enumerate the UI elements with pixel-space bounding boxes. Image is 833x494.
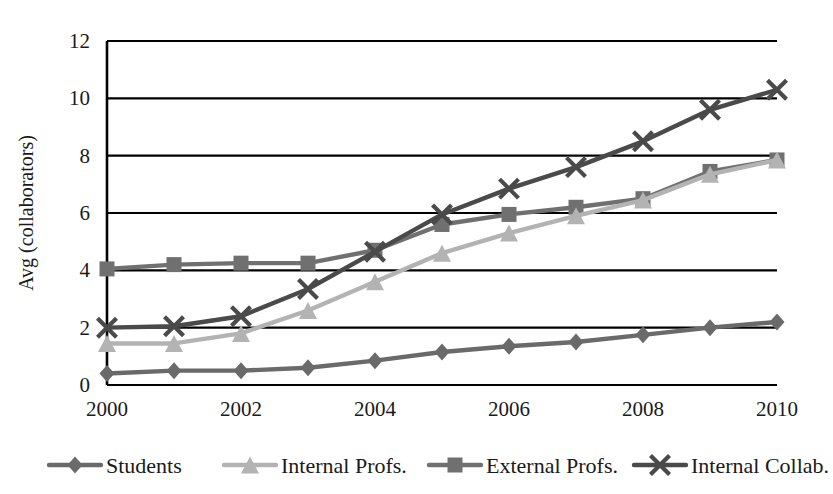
y-axis-title: Avg (collaborators) [15,135,38,291]
chart-figure: 024681012 200020022004200620082010 Avg (… [0,0,833,494]
x-tick-label: 2000 [86,397,128,421]
legend-item-label: Internal Collab. [691,453,829,478]
y-axis-title-label: Avg (collaborators) [15,135,38,291]
data-point-square [100,261,115,276]
y-tick-label: 4 [80,258,91,282]
y-tick-label: 6 [80,201,91,225]
data-point-square [502,207,517,222]
data-point-square [234,256,249,271]
legend-item-label: External Profs. [486,453,618,478]
x-tick-label: 2006 [488,397,530,421]
legend-item-label: Students [106,453,182,478]
y-tick-label: 12 [69,29,90,53]
y-tick-label: 10 [69,86,90,110]
y-tick-label: 8 [80,144,91,168]
legend-item-label: Internal Profs. [281,453,407,478]
y-tick-label: 2 [80,316,91,340]
data-point-square [448,458,463,473]
data-point-square [301,256,316,271]
data-point-square [167,257,182,272]
line-chart: 024681012 200020022004200620082010 Avg (… [0,0,833,494]
x-tick-label: 2008 [622,397,664,421]
x-tick-label: 2002 [220,397,262,421]
x-tick-label: 2010 [756,397,798,421]
x-tick-label: 2004 [354,397,397,421]
y-tick-label: 0 [80,373,91,397]
